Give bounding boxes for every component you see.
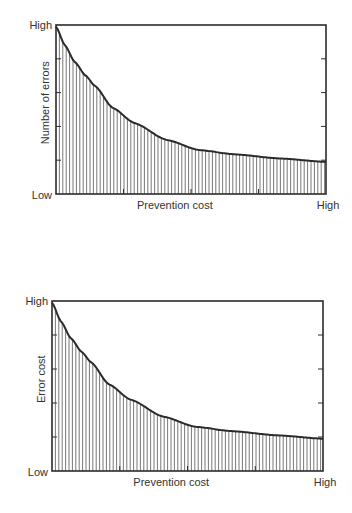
y-tick-label-low: Low <box>28 466 48 478</box>
y-axis-label: Number of errors <box>39 61 51 145</box>
area-fill-hatching <box>55 309 320 471</box>
x-axis-label: Prevention cost <box>137 199 213 211</box>
x-axis-label: Prevention cost <box>133 476 209 488</box>
y-tick-label-high: High <box>29 19 52 31</box>
charts-canvas: High Low High Prevention cost Number of … <box>0 0 352 513</box>
y-axis-label: Error cost <box>35 355 47 403</box>
y-tick-label-high: High <box>25 295 48 307</box>
number-of-errors-chart: High Low High Prevention cost Number of … <box>29 19 339 211</box>
area-fill-hatching <box>59 33 324 194</box>
x-tick-label-high: High <box>317 199 340 211</box>
x-tick-label-high: High <box>314 476 337 488</box>
y-tick-label-low: Low <box>32 189 52 201</box>
error-cost-chart: High Low High Prevention cost Error cost <box>25 295 336 488</box>
